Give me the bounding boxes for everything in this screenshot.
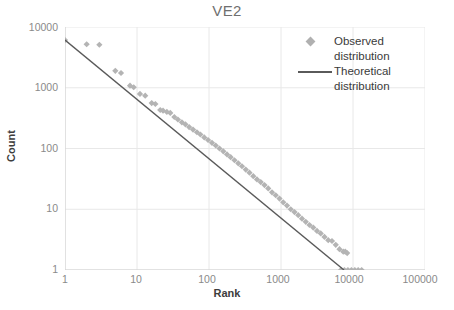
chart-legend: Observed distribution Theoretical distri… [296,34,452,94]
chart-title: VE2 [0,2,454,19]
x-tick-label: 10 [106,274,166,284]
diamond-marker-icon [296,34,332,49]
y-axis-label: Count [5,111,17,181]
x-tick-label: 100000 [390,274,450,284]
x-tick-label: 1000 [248,274,308,284]
y-tick-label: 10 [10,203,58,213]
x-axis-label: Rank [0,287,454,299]
legend-label: Observed [334,34,452,49]
x-tick-label: 100 [177,274,237,284]
legend-label-cont: distribution [334,49,452,64]
legend-label-cont: distribution [334,79,452,94]
x-tick-label: 1 [35,274,95,284]
legend-item-observed: Observed distribution [296,34,452,64]
legend-label: Theoretical [334,64,452,79]
line-marker-icon [296,64,332,79]
y-tick-label: 10000 [10,22,58,32]
y-tick-label: 100 [10,143,58,153]
x-tick-label: 10000 [319,274,379,284]
y-tick-label: 1 [10,264,58,274]
y-tick-label: 1000 [10,82,58,92]
chart-container: VE2 10000 1000 100 10 1 1 10 100 1000 10… [0,0,454,310]
legend-item-theoretical: Theoretical distribution [296,64,452,94]
